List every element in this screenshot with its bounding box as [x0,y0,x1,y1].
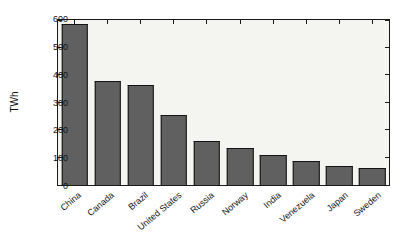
x-tick-label: Venezuela [278,190,317,225]
bar-japan [326,166,352,185]
bar-india [260,155,286,185]
x-tick-label: India [261,190,282,210]
bar-brazil [128,85,154,185]
bar-norway [227,148,253,185]
bar-united-states [161,115,187,185]
x-axis-tick [107,20,108,24]
y-axis-title: TWh [9,91,20,112]
x-tick-label: Norway [220,190,250,217]
y-axis-tick [385,74,389,75]
bar-china [61,24,87,185]
figure: 0100200300400500600 ChinaCanadaBrazilUni… [0,0,411,252]
x-axis-tick [140,20,141,24]
x-axis-tick [306,20,307,24]
y-axis-tick [58,20,62,21]
x-axis-tick [372,20,373,24]
x-axis-tick [273,20,274,24]
x-axis-tick [339,20,340,24]
x-tick-label: Brazil [126,190,150,212]
y-axis-tick [385,47,389,48]
x-tick-label: China [59,190,83,213]
y-axis-tick [385,20,389,21]
bar-russia [194,141,220,185]
x-axis-tick [240,20,241,24]
bar-sweden [359,168,385,185]
x-tick-label: Sweden [351,190,382,219]
bar-venezuela [293,161,319,185]
x-tick-label: Japan [324,190,349,213]
x-tick-label: Russia [189,190,217,215]
plot-area [57,19,390,186]
x-axis-tick [173,20,174,24]
x-axis-tick [206,20,207,24]
x-tick-label: Canada [86,190,117,218]
y-axis-tick [385,157,389,158]
y-axis-tick [385,129,389,130]
bar-canada [94,81,120,186]
x-tick-label: United States [135,190,183,232]
y-axis-tick [385,102,389,103]
